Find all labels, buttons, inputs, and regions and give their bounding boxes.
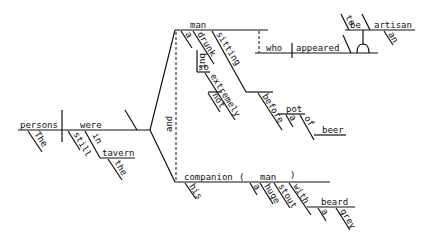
word-before: before xyxy=(260,92,286,125)
lower-branch-line xyxy=(150,130,175,182)
paren-close: ) xyxy=(290,170,295,180)
word-beard: beard xyxy=(321,197,348,207)
predicate-slash xyxy=(125,110,137,130)
word-still: still xyxy=(71,130,93,158)
word-a-3: a xyxy=(251,182,262,192)
word-of: of xyxy=(302,114,316,128)
word-artisan: artisan xyxy=(374,20,412,30)
word-be: be xyxy=(350,20,361,30)
word-and: and xyxy=(164,116,174,132)
word-beer: beer xyxy=(322,125,344,135)
word-who: who xyxy=(266,43,282,53)
word-a-4: a xyxy=(319,207,330,217)
word-were: were xyxy=(80,120,102,130)
word-tavern: tavern xyxy=(102,148,135,158)
word-an: an xyxy=(386,30,400,44)
word-pot: pot xyxy=(286,104,302,114)
word-persons: persons xyxy=(20,120,58,130)
word-so: so xyxy=(198,62,209,72)
word-the-2: the xyxy=(112,158,129,177)
upper-branch-line xyxy=(150,30,175,130)
word-grey: grey xyxy=(338,207,358,231)
word-companion: companion xyxy=(184,172,233,182)
complement-slash xyxy=(362,14,370,30)
word-his: his xyxy=(187,182,204,201)
sentence-diagram: The persons were still in tavern the and… xyxy=(0,0,432,244)
pedestal-base xyxy=(357,44,369,53)
word-appeared: appeared xyxy=(296,43,339,53)
complement-slash xyxy=(343,35,351,53)
word-man-2: man xyxy=(260,172,276,182)
word-the: The xyxy=(32,130,49,149)
paren-open: ( xyxy=(239,172,244,182)
word-man: man xyxy=(190,20,206,30)
